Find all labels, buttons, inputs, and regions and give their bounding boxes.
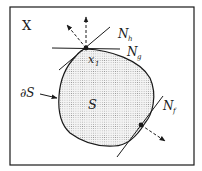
diagram-canvas: X S ∂S x 1 N h N g N f [0,0,202,171]
set-s-region [59,49,154,146]
point-label: x [88,53,95,66]
set-label: S [88,97,97,112]
boundary-label: ∂S [20,86,34,100]
normal-cone-h-subscript: h [128,35,133,43]
space-label: X [22,18,32,33]
point-f [139,123,144,128]
normal-cone-g-subscript: g [137,53,142,61]
normal-arrow-upleft [67,25,86,48]
normal-arrow-f [141,125,165,141]
point-x1 [84,46,89,51]
boundary-pointer-arrow [40,94,57,98]
normal-cone-f-subscript: f [172,107,177,115]
point-subscript: 1 [95,60,99,68]
